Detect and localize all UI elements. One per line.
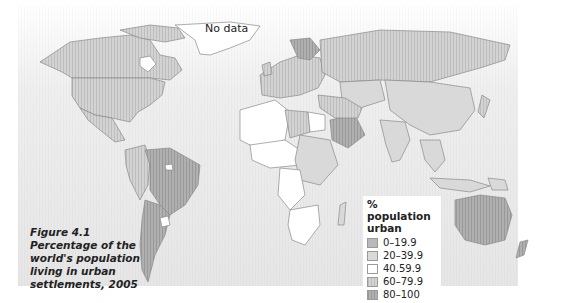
legend-label: 20–39.9	[383, 250, 423, 261]
legend-label: 80–100	[383, 289, 420, 300]
region-india	[380, 120, 410, 162]
legend-item: 60–79.9	[367, 275, 437, 288]
legend-item: 0–19.9	[367, 236, 437, 249]
caption-line: living in urban	[30, 265, 150, 278]
caption-line: settlements, 2005	[30, 278, 150, 291]
legend-swatch	[367, 251, 378, 261]
caption-line: Percentage of the	[30, 239, 150, 252]
region-southeast-asia	[420, 140, 445, 172]
legend-item: 40.59.9	[367, 262, 437, 275]
no-data-label: No data	[205, 22, 248, 35]
legend-title-line: % population	[367, 198, 437, 222]
region-russia	[320, 30, 510, 82]
region-sahel	[250, 140, 300, 168]
region-canada	[40, 35, 182, 80]
region-new-zealand	[516, 240, 528, 258]
caption-line: world's population	[30, 252, 150, 265]
region-europe	[260, 55, 325, 98]
region-paraguay	[160, 216, 170, 227]
legend-swatch	[367, 264, 378, 274]
region-indonesia	[430, 178, 490, 192]
region-uk	[262, 62, 272, 76]
region-australia	[455, 195, 512, 245]
legend-label: 0–19.9	[383, 237, 417, 248]
region-saudi-arabia	[330, 115, 365, 148]
legend-label: 40.59.9	[383, 263, 421, 274]
legend-swatch	[367, 238, 378, 248]
region-southern-africa	[288, 205, 320, 245]
region-guyana	[165, 164, 173, 170]
figure-number: Figure 4.1	[30, 226, 150, 239]
figure-caption: Figure 4.1 Percentage of the world's pop…	[30, 226, 150, 291]
region-central-africa	[278, 168, 305, 210]
map-legend: % population urban 0–19.9 20–39.9 40.59.…	[363, 196, 441, 303]
legend-item: 20–39.9	[367, 249, 437, 262]
region-libya	[285, 110, 310, 138]
legend-label: 60–79.9	[383, 276, 423, 287]
legend-title: % population urban	[367, 198, 437, 234]
legend-swatch	[367, 277, 378, 287]
legend-title-line: urban	[367, 222, 437, 234]
region-egypt	[308, 112, 325, 132]
region-japan	[478, 95, 490, 118]
region-madagascar	[338, 202, 346, 225]
region-new-guinea	[488, 178, 508, 190]
legend-swatch	[367, 290, 378, 300]
legend-item: 80–100	[367, 288, 437, 301]
